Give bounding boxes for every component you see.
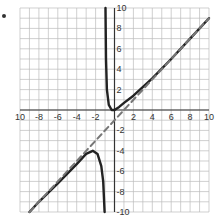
- y-tick-label: 6: [117, 44, 122, 54]
- x-tick-label: -6: [54, 112, 62, 122]
- x-tick-label: -8: [35, 112, 43, 122]
- x-tick-label: 4: [150, 112, 155, 122]
- y-tick-label: 2: [117, 85, 122, 95]
- x-tick-label: -2: [92, 112, 100, 122]
- y-tick-label: -6: [117, 166, 125, 176]
- y-tick-label: -2: [117, 125, 125, 135]
- y-tick-label: 10: [117, 3, 127, 13]
- y-tick-label: -8: [117, 187, 125, 197]
- x-tick-label: 2: [131, 112, 136, 122]
- x-tick-label: 10: [15, 112, 25, 122]
- x-tick-label: 10: [204, 112, 214, 122]
- x-tick-label: -4: [73, 112, 81, 122]
- y-tick-label: -4: [117, 146, 125, 156]
- y-tick-label: -10: [117, 207, 130, 215]
- x-tick-label: 8: [188, 112, 193, 122]
- y-tick-label: 4: [117, 64, 122, 74]
- rational-function-graph: 10-8-6-4-2246810108642-2-4-6-8-10: [0, 0, 215, 215]
- x-tick-label: 6: [169, 112, 174, 122]
- y-tick-label: 8: [117, 23, 122, 33]
